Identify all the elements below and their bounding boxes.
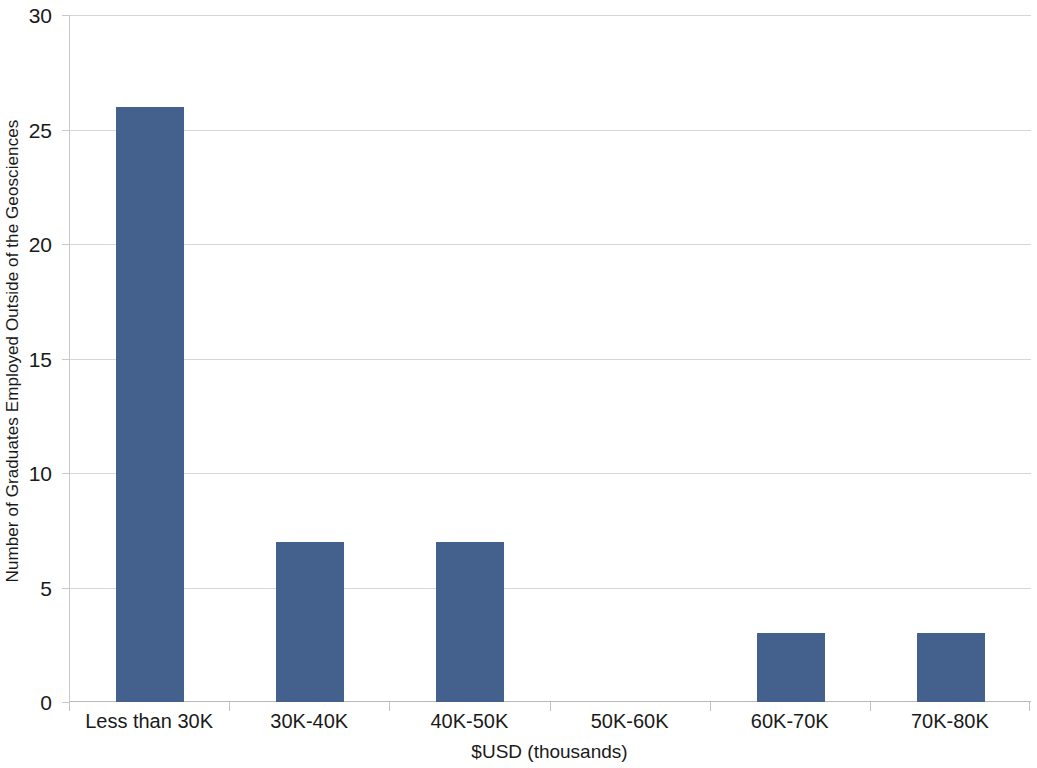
bar (757, 633, 825, 702)
x-axis-tick-label: 60K-70K (751, 708, 829, 734)
y-axis-tick-label: 5 (40, 577, 52, 598)
x-axis-tick-label: 40K-50K (430, 708, 508, 734)
y-axis-tick-labels: 051015202530 (0, 0, 62, 768)
bar-slot (390, 15, 550, 702)
bar-slot (711, 15, 871, 702)
bar (276, 542, 344, 702)
y-axis-tick-label: 30 (29, 5, 52, 26)
y-axis-tick-mark (62, 588, 69, 589)
y-axis-tick-mark (62, 473, 69, 474)
bar-slot (70, 15, 230, 702)
y-axis-tick-mark (62, 15, 69, 16)
y-axis-tick-mark (62, 244, 69, 245)
x-axis-tick-label: 50K-60K (591, 708, 669, 734)
bar-slot (230, 15, 390, 702)
bar (436, 542, 504, 702)
y-axis-tick-label: 10 (29, 463, 52, 484)
x-axis-tick-label: Less than 30K (85, 708, 213, 734)
y-axis-tick-label: 25 (29, 119, 52, 140)
bar (917, 633, 985, 702)
x-axis-title: $USD (thousands) (69, 740, 1030, 764)
bar-slot (871, 15, 1031, 702)
y-axis-tick-mark (62, 130, 69, 131)
bar-series (70, 15, 1031, 702)
bar-slot (551, 15, 711, 702)
y-axis-tick-label: 15 (29, 348, 52, 369)
x-axis-tick-labels: Less than 30K30K-40K40K-50K50K-60K60K-70… (69, 708, 1030, 738)
y-axis-tick-label: 0 (40, 692, 52, 713)
plot-area (69, 15, 1030, 702)
x-axis-tick-label: 70K-80K (911, 708, 989, 734)
bar (116, 107, 184, 702)
x-axis-tick-label: 30K-40K (270, 708, 348, 734)
y-axis-tick-label: 20 (29, 234, 52, 255)
y-axis-tick-mark (62, 359, 69, 360)
y-axis-tick-mark (62, 702, 69, 703)
bar-chart: Number of Graduates Employed Outside of … (0, 0, 1037, 768)
